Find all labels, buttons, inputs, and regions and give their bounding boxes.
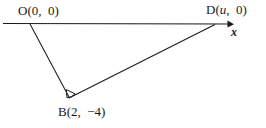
x-axis-line <box>3 24 230 25</box>
label-axis-x: x <box>231 26 237 38</box>
geometry-canvas <box>0 0 266 128</box>
segment-ob <box>30 24 70 98</box>
label-point-b: B(2, −4) <box>58 105 105 118</box>
label-origin-point: O(0, 0) <box>18 4 59 17</box>
segment-bd <box>69 25 215 99</box>
label-point-d-suffix: , 0) <box>226 2 247 17</box>
label-point-d-prefix: D( <box>206 2 220 17</box>
label-point-d: D(u, 0) <box>206 3 247 16</box>
geometry-figure: O(0, 0) D(u, 0) B(2, −4) x <box>0 0 266 128</box>
